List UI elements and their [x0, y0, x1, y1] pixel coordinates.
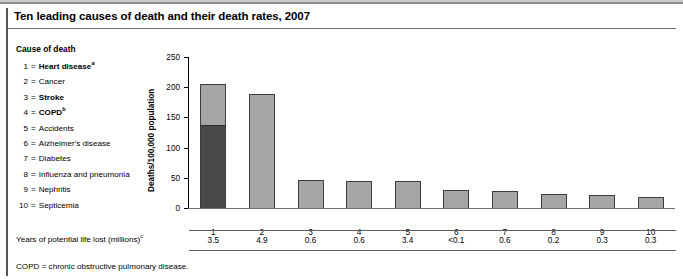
- legend-item-equals: =: [31, 182, 39, 197]
- y-tick-label: 0: [175, 204, 180, 213]
- legend-item-number: 1: [16, 59, 31, 74]
- chart-bar[interactable]: [541, 194, 567, 208]
- bar-segment-lower: [201, 125, 225, 208]
- y-tick-label: 250: [166, 53, 180, 62]
- legend-item-number: 6: [16, 136, 31, 151]
- bar-segment-upper: [396, 182, 420, 208]
- legend-item-number: 4: [16, 105, 31, 120]
- y-tick-label: 200: [166, 83, 180, 92]
- table-cell: 0.3: [596, 236, 607, 245]
- bar-slot: [395, 57, 421, 208]
- table-cell: 0.6: [353, 236, 364, 245]
- legend-item-label: COPDb: [39, 105, 66, 120]
- legend-item-equals: =: [31, 121, 39, 136]
- chart-bar[interactable]: [638, 197, 664, 208]
- table-row: 3.54.90.60.63.4<0.10.60.20.30.3: [189, 230, 676, 251]
- bar-segment-upper: [250, 95, 274, 208]
- table-cell: 3.5: [208, 236, 219, 245]
- bar-slot: [492, 57, 518, 208]
- legend-item-label: Nephritis: [39, 182, 71, 197]
- bar-slot: [200, 57, 226, 208]
- legend-item-equals: =: [31, 198, 39, 213]
- table-label-footnote-marker: c: [140, 233, 143, 239]
- bar-segment-upper: [201, 85, 225, 126]
- bar-slot: [443, 57, 469, 208]
- table-cell: 0.6: [499, 236, 510, 245]
- x-axis-line: [188, 208, 675, 209]
- cause-of-death-legend: Cause of death 1=Heart diseasea2=Cancer3…: [16, 44, 156, 213]
- bar-segment-upper: [542, 195, 566, 208]
- scan-edge-top-dark: [0, 2, 683, 4]
- legend-item-equals: =: [31, 151, 39, 166]
- footnote-copd: COPD = chronic obstructive pulmonary dis…: [16, 262, 189, 271]
- legend-item: 9=Nephritis: [16, 182, 156, 197]
- legend-item: 3=Stroke: [16, 90, 156, 105]
- chart-bar[interactable]: [200, 84, 226, 208]
- legend-item-label: Heart diseasea: [39, 59, 95, 74]
- legend-item-footnote-marker: b: [62, 106, 65, 112]
- legend-item-number: 10: [16, 198, 31, 213]
- table-cell: 0.6: [305, 236, 316, 245]
- bar-segment-upper: [493, 192, 517, 208]
- table-cell: 3.4: [402, 236, 413, 245]
- legend-list: 1=Heart diseasea2=Cancer3=Stroke4=COPDb5…: [16, 59, 156, 213]
- chart-bar[interactable]: [492, 191, 518, 208]
- bar-segment-upper: [444, 191, 468, 208]
- y-axis-ticks: 050100150200250: [158, 44, 184, 216]
- bar-segment-upper: [299, 181, 323, 208]
- legend-item-equals: =: [31, 136, 39, 151]
- figure-title: Ten leading causes of death and their de…: [14, 10, 310, 22]
- legend-item: 8=Influenza and pneumonia: [16, 167, 156, 182]
- table-cell: <0.1: [448, 236, 464, 245]
- bar-segment-upper: [347, 182, 371, 208]
- y-tick-label: 50: [171, 173, 180, 182]
- bar-segment-upper: [639, 198, 663, 208]
- legend-item: 5=Accidents: [16, 121, 156, 136]
- legend-heading: Cause of death: [16, 44, 156, 54]
- legend-item-equals: =: [31, 105, 39, 120]
- legend-item-label: Stroke: [39, 90, 64, 105]
- bar-slot: [589, 57, 615, 208]
- legend-item: 1=Heart diseasea: [16, 59, 156, 74]
- legend-item-number: 2: [16, 74, 31, 89]
- legend-item: 2=Cancer: [16, 74, 156, 89]
- bar-chart: Deaths/100,000 population 05010015020025…: [148, 44, 676, 216]
- bar-slot: [346, 57, 372, 208]
- bar-slot: [249, 57, 275, 208]
- y-tick-label: 150: [166, 113, 180, 122]
- legend-item-number: 8: [16, 167, 31, 182]
- table-cell: 0.3: [645, 236, 656, 245]
- chart-bar[interactable]: [249, 94, 275, 208]
- legend-item-number: 9: [16, 182, 31, 197]
- legend-item-number: 3: [16, 90, 31, 105]
- legend-item-footnote-marker: a: [91, 60, 94, 66]
- title-divider: [8, 28, 676, 29]
- legend-item-number: 7: [16, 151, 31, 166]
- legend-item-label: Accidents: [39, 121, 74, 136]
- legend-item-equals: =: [31, 74, 39, 89]
- legend-item-equals: =: [31, 90, 39, 105]
- chart-bar[interactable]: [346, 181, 372, 208]
- bar-segment-upper: [590, 196, 614, 208]
- legend-item-number: 5: [16, 121, 31, 136]
- bar-slot: [298, 57, 324, 208]
- table-row-label: Years of potential life lost (millions)c: [16, 235, 143, 244]
- table-cell: 4.9: [256, 236, 267, 245]
- figure-panel: Ten leading causes of death and their de…: [0, 0, 683, 279]
- legend-item-label: Septicemia: [39, 198, 79, 213]
- chart-bar[interactable]: [589, 195, 615, 208]
- legend-item: 10=Septicemia: [16, 198, 156, 213]
- legend-item-label: Cancer: [39, 74, 65, 89]
- panel-left-border: [6, 8, 8, 276]
- y-tick-label: 100: [166, 143, 180, 152]
- chart-bar[interactable]: [395, 181, 421, 208]
- years-of-life-lost-table: Years of potential life lost (millions)c…: [16, 229, 676, 253]
- plot-area: 12345678910: [189, 57, 675, 208]
- legend-item: 6=Alzheimer's disease: [16, 136, 156, 151]
- legend-item-label: Diabetes: [39, 151, 71, 166]
- chart-bar[interactable]: [443, 190, 469, 208]
- legend-item-label: Influenza and pneumonia: [39, 167, 130, 182]
- table-cell: 0.2: [548, 236, 559, 245]
- legend-item-equals: =: [31, 167, 39, 182]
- chart-bar[interactable]: [298, 180, 324, 208]
